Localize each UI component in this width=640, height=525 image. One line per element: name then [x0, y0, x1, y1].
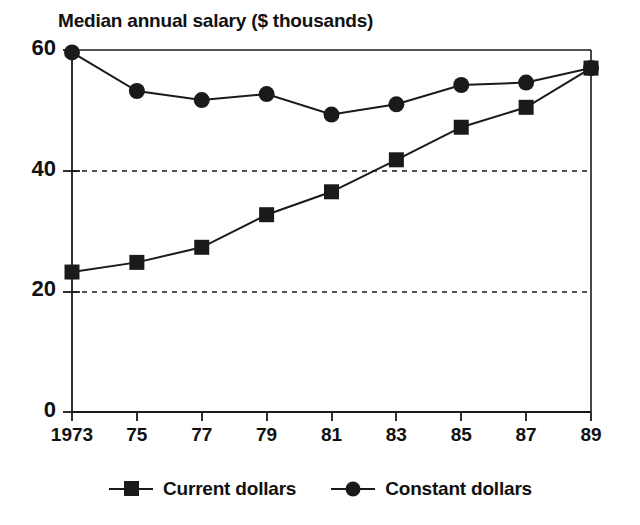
data-point-marker — [259, 207, 274, 222]
data-point-marker — [259, 86, 275, 102]
data-series-layer — [64, 44, 599, 279]
data-point-marker — [65, 265, 80, 280]
legend-entry-constant-dollars[interactable]: Constant dollars — [330, 478, 532, 500]
data-point-marker — [324, 184, 339, 199]
legend-entry-current-dollars[interactable]: Current dollars — [108, 478, 296, 500]
data-point-marker — [194, 92, 210, 108]
data-point-marker — [64, 44, 80, 60]
x-tick-label: 1973 — [51, 424, 93, 446]
legend-label-current-dollars: Current dollars — [163, 478, 296, 500]
data-point-marker — [129, 255, 144, 270]
data-point-marker — [454, 120, 469, 135]
chart-figure: Median annual salary ($ thousands) — [0, 0, 640, 525]
data-point-marker — [388, 96, 404, 112]
square-marker-icon — [108, 479, 154, 499]
data-point-marker — [129, 83, 145, 99]
x-tick-label: 75 — [126, 424, 147, 446]
x-axis-ticks — [72, 412, 591, 421]
series-line — [72, 68, 591, 272]
data-point-marker — [583, 60, 599, 76]
series-square — [65, 61, 599, 280]
x-tick-label: 81 — [321, 424, 342, 446]
plot-area — [0, 0, 640, 525]
x-tick-label: 87 — [516, 424, 537, 446]
x-tick-label: 77 — [191, 424, 212, 446]
x-tick-label: 89 — [580, 424, 601, 446]
x-tick-label: 85 — [451, 424, 472, 446]
x-tick-label: 83 — [386, 424, 407, 446]
y-tick-label: 20 — [10, 276, 56, 302]
y-tick-label: 60 — [10, 35, 56, 61]
x-tick-label: 79 — [256, 424, 277, 446]
series-line — [72, 52, 591, 114]
y-tick-label: 0 — [10, 397, 56, 423]
data-point-marker — [389, 152, 404, 167]
data-point-marker — [453, 77, 469, 93]
data-point-marker — [518, 75, 534, 91]
data-point-marker — [324, 107, 340, 123]
legend-label-constant-dollars: Constant dollars — [385, 478, 532, 500]
data-point-marker — [194, 240, 209, 255]
y-tick-label: 40 — [10, 156, 56, 182]
data-point-marker — [519, 100, 534, 115]
circle-marker-icon — [330, 479, 376, 499]
chart-legend: Current dollars Constant dollars — [0, 478, 640, 500]
axis-frame — [72, 50, 591, 412]
